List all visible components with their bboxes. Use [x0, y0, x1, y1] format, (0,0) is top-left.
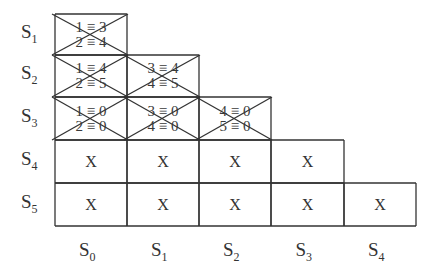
equivalence-pair: 1 ≡ 4 [55, 61, 127, 76]
marked-cell: X [271, 140, 344, 183]
x-mark: X [199, 196, 271, 214]
equivalence-pair: 2 ≡ 4 [55, 35, 127, 50]
crossed-out-cell: 1 ≡ 02 ≡ 0 [55, 97, 127, 140]
equivalence-pair: 4 ≡ 0 [127, 119, 199, 134]
x-mark: X [127, 196, 199, 214]
equivalence-pair: 4 ≡ 5 [127, 76, 199, 91]
marked-cell: X [199, 140, 271, 183]
x-mark: X [127, 153, 199, 171]
equivalence-pair: 2 ≡ 0 [55, 119, 127, 134]
equivalence-pair: 3 ≡ 0 [127, 104, 199, 119]
column-label: S4 [368, 239, 385, 265]
column-label: S0 [79, 239, 96, 265]
equivalence-pair: 1 ≡ 3 [55, 20, 127, 35]
implication-table: 1 ≡ 32 ≡ 41 ≡ 42 ≡ 53 ≡ 44 ≡ 51 ≡ 02 ≡ 0… [0, 0, 433, 272]
marked-cell: X [344, 183, 416, 226]
row-label: S2 [21, 62, 38, 88]
crossed-out-cell: 1 ≡ 32 ≡ 4 [55, 14, 127, 55]
row-label: S1 [21, 21, 38, 47]
crossed-out-cell: 1 ≡ 42 ≡ 5 [55, 55, 127, 97]
marked-cell: X [199, 183, 271, 226]
x-mark: X [271, 196, 344, 214]
column-label: S3 [296, 239, 313, 265]
equivalence-pair: 2 ≡ 5 [55, 76, 127, 91]
x-mark: X [344, 196, 416, 214]
marked-cell: X [55, 140, 127, 183]
row-label: S4 [21, 148, 38, 174]
x-mark: X [199, 153, 271, 171]
marked-cell: X [55, 183, 127, 226]
row-label: S5 [21, 191, 38, 217]
marked-cell: X [127, 183, 199, 226]
crossed-out-cell: 3 ≡ 44 ≡ 5 [127, 55, 199, 97]
equivalence-pair: 3 ≡ 4 [127, 61, 199, 76]
equivalence-pair: 5 ≡ 0 [199, 119, 271, 134]
column-label: S1 [151, 239, 168, 265]
x-mark: X [271, 153, 344, 171]
equivalence-pair: 1 ≡ 0 [55, 104, 127, 119]
equivalence-pair: 4 ≡ 0 [199, 104, 271, 119]
row-label: S3 [21, 105, 38, 131]
x-mark: X [55, 153, 127, 171]
column-label: S2 [223, 239, 240, 265]
marked-cell: X [127, 140, 199, 183]
crossed-out-cell: 3 ≡ 04 ≡ 0 [127, 97, 199, 140]
x-mark: X [55, 196, 127, 214]
marked-cell: X [271, 183, 344, 226]
crossed-out-cell: 4 ≡ 05 ≡ 0 [199, 97, 271, 140]
